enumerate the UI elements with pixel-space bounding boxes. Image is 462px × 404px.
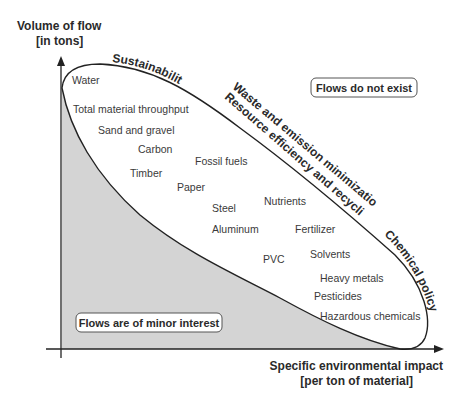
material-label: Timber xyxy=(130,167,163,179)
material-label: Steel xyxy=(212,202,236,214)
material-label: Fossil fuels xyxy=(195,155,248,167)
material-label: Solvents xyxy=(310,248,350,260)
x-axis-title-line2: [per ton of material] xyxy=(300,374,413,388)
flows-minor-interest-box: Flows are of minor interest xyxy=(76,313,222,332)
chemical-policy-label: Chemical policy xyxy=(382,227,441,313)
flows-do-not-exist-text: Flows do not exist xyxy=(316,82,412,94)
material-label: Pesticides xyxy=(314,290,362,302)
x-axis-arrow-icon xyxy=(434,345,444,353)
flows-do-not-exist-box: Flows do not exist xyxy=(311,78,417,97)
chemical-policy-text: Chemical policy xyxy=(382,227,441,313)
material-label: Paper xyxy=(177,181,206,193)
y-axis-arrow-icon xyxy=(57,56,65,66)
material-label: Heavy metals xyxy=(320,272,384,284)
y-axis-title-line1: Volume of flow xyxy=(17,19,102,33)
material-label: Total material throughput xyxy=(73,103,189,115)
material-label: Nutrients xyxy=(264,195,306,207)
material-label: Aluminum xyxy=(212,223,259,235)
material-label: Water xyxy=(72,74,100,86)
flow-impact-diagram: Volume of flow [in tons] Specific enviro… xyxy=(0,0,462,404)
material-label: Carbon xyxy=(138,143,173,155)
material-label: PVC xyxy=(263,253,285,265)
y-axis-title-line2: [in tons] xyxy=(36,34,83,48)
flows-minor-interest-text: Flows are of minor interest xyxy=(79,317,220,329)
material-label: Sand and gravel xyxy=(98,124,174,136)
material-label: Fertilizer xyxy=(295,223,336,235)
x-axis-title-line1: Specific environmental impact xyxy=(270,359,443,373)
material-label: Hazardous chemicals xyxy=(320,310,420,322)
